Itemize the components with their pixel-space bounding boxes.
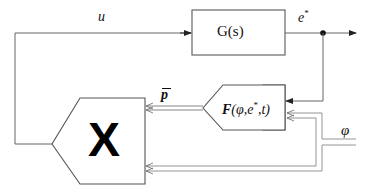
signal-label-p-bar: p	[161, 87, 168, 103]
signal-label-u: u	[98, 9, 105, 25]
output-signal-e-line	[285, 30, 356, 36]
parameter-vector-p-line	[146, 106, 203, 110]
block-diagram-canvas	[0, 0, 378, 196]
f-tail: ,t)	[258, 102, 270, 117]
p-label: p	[161, 87, 168, 102]
overbar	[162, 88, 171, 89]
signal-label-phi: φ	[341, 122, 349, 139]
e-superscript: *	[304, 8, 309, 18]
multiplier-label-x: X	[88, 116, 120, 164]
f-args: (φ,e	[231, 102, 253, 117]
signal-label-e-star: e*	[298, 8, 309, 26]
plant-label-g-s: G(s)	[217, 23, 244, 40]
function-label-f: F(φ,e*,t)	[222, 100, 270, 118]
f-name: F	[222, 102, 231, 117]
feedback-e-to-f-line	[286, 33, 323, 101]
